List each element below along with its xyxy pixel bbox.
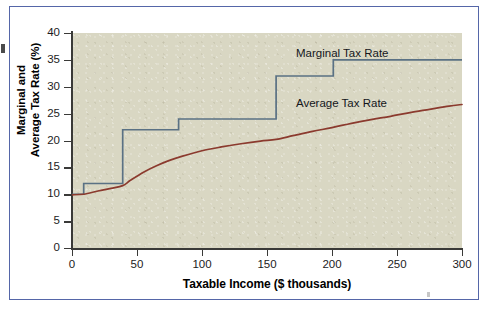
y-axis-tick-label-text: 0 <box>34 241 60 253</box>
x-axis-tick-label: 200 <box>312 258 352 270</box>
y-axis-title-line2: Average Tax Rate (%) <box>28 20 42 180</box>
x-axis-tick <box>267 249 268 256</box>
y-axis-title-line1: Marginal and <box>14 20 28 180</box>
x-axis-tick <box>137 249 138 256</box>
tax-rate-chart: 0510152025303540 050100150200250300 Marg… <box>0 0 498 316</box>
x-axis-tick <box>332 249 333 256</box>
x-axis-title: Taxable Income ($ thousands) <box>72 277 462 291</box>
x-axis-tick <box>462 249 463 256</box>
x-axis-tick <box>72 249 73 256</box>
x-axis-tick-label: 100 <box>182 258 222 270</box>
y-axis-title: Marginal and Average Tax Rate (%) <box>14 20 42 180</box>
x-axis-tick <box>202 249 203 256</box>
y-axis-tick-label-text: 5 <box>34 214 60 226</box>
x-axis-tick-label: 250 <box>377 258 417 270</box>
x-axis-tick-label: 0 <box>52 258 92 270</box>
x-axis-tick-label: 50 <box>117 258 157 270</box>
x-axis-tick-label: 300 <box>442 258 482 270</box>
y-axis-tick <box>64 248 71 249</box>
figure-container: 0510152025303540 050100150200250300 Marg… <box>0 0 498 316</box>
y-axis-tick <box>64 33 71 34</box>
average-tax-rate-label: Average Tax Rate <box>296 97 387 109</box>
average-tax-rate-line <box>72 104 462 194</box>
x-axis-tick-label: 150 <box>247 258 287 270</box>
y-axis-tick-label-text: 10 <box>34 187 60 199</box>
y-axis-tick-label: 5 <box>30 214 60 228</box>
y-axis-tick-label: 0 <box>30 241 60 255</box>
y-axis-tick <box>64 221 71 222</box>
y-axis-tick <box>64 141 71 142</box>
y-axis-tick <box>64 194 71 195</box>
x-axis-tick <box>397 249 398 256</box>
y-axis-tick <box>64 114 71 115</box>
y-axis-tick <box>64 87 71 88</box>
y-axis-tick-label: 10 <box>30 187 60 201</box>
marginal-tax-rate-line <box>72 60 462 194</box>
y-axis-tick <box>64 167 71 168</box>
marginal-tax-rate-label: Marginal Tax Rate <box>296 47 388 59</box>
series-plot-svg <box>72 33 464 250</box>
y-axis-tick <box>64 60 71 61</box>
